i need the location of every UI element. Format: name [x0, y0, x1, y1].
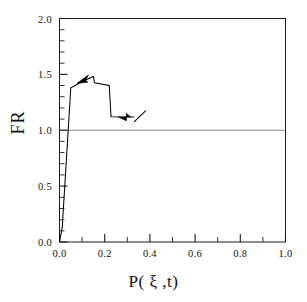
ytick-label-1: 0.5: [24, 181, 52, 192]
xtick-label-5: 1.0: [278, 248, 292, 259]
xtick-label-0: 0.0: [52, 248, 66, 259]
chart-figure: 0.0 0.5 1.0 1.5 2.0 0.0 0.2 0.4 0.6 0.8 …: [0, 0, 307, 302]
x-axis-minor-ticks: [82, 237, 263, 242]
xtick-label-1: 0.2: [98, 248, 112, 259]
arrow-on-drop-icon: [118, 113, 130, 121]
x-axis-title: P( ξ ,t): [0, 272, 307, 292]
xtick-label-4: 0.8: [233, 248, 247, 259]
ytick-label-3: 1.5: [24, 69, 52, 80]
xtick-label-3: 0.6: [188, 248, 202, 259]
ytick-label-4: 2.0: [24, 13, 52, 24]
ytick-label-0: 0.0: [24, 237, 52, 248]
y-axis-title: FR: [8, 110, 29, 134]
trailing-segment: [134, 111, 146, 122]
xtick-label-2: 0.4: [143, 248, 157, 259]
data-curve: [60, 77, 135, 242]
